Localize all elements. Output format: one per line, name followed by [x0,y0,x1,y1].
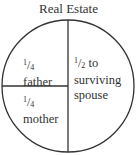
fraction-one-quarter-mother: 1/4 [23,92,58,112]
slice-label-spouse: 1/2 to surviving spouse [74,53,121,103]
fraction-one-quarter-father: 1/4 [23,55,52,75]
slice-label-father: 1/4 father [23,55,52,90]
fraction-one-half: 1/2 [74,56,85,70]
slice-label-mother: 1/4 mother [23,92,58,127]
